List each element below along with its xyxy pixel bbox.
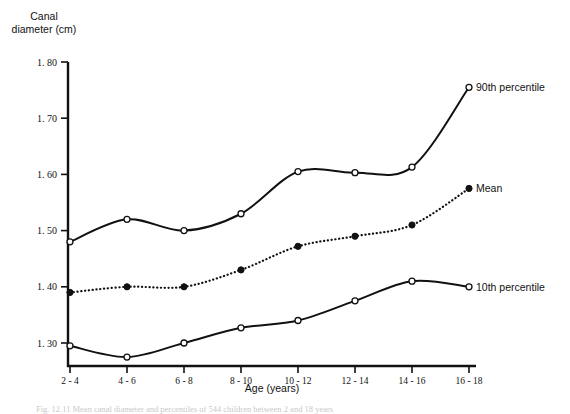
data-point — [181, 340, 187, 346]
data-point — [409, 222, 415, 228]
data-point — [295, 243, 301, 249]
data-point — [67, 343, 73, 349]
series-label-10th-percentile: 10th percentile — [476, 281, 545, 293]
series-label-90th-percentile: 90th percentile — [476, 81, 545, 93]
y-tick-label: 1. 40 — [37, 281, 57, 292]
data-point — [67, 239, 73, 245]
data-point — [409, 278, 415, 284]
series-layer — [67, 84, 472, 360]
y-axis-ticks: 1. 301. 401. 501. 601. 701. 80 — [37, 57, 68, 349]
y-tick-label: 1. 60 — [37, 169, 57, 180]
y-tick-label: 1. 50 — [37, 225, 57, 236]
series-10th-percentile — [67, 278, 472, 360]
x-tick-label: 4 - 6 — [118, 376, 136, 386]
data-point — [124, 354, 130, 360]
data-point — [181, 228, 187, 234]
x-axis-title: Age (years) — [245, 382, 299, 394]
data-point — [409, 164, 415, 170]
y-tick-label: 1. 70 — [37, 113, 57, 124]
data-point — [124, 216, 130, 222]
y-axis-title-line2: diameter (cm) — [12, 23, 77, 35]
y-axis-title-group: Canal diameter (cm) — [12, 10, 77, 35]
data-point — [295, 169, 301, 175]
series-label-mean: Mean — [476, 182, 502, 194]
x-tick-label: 6 - 8 — [175, 376, 193, 386]
x-tick-label: 16 - 18 — [456, 376, 483, 386]
data-point — [466, 284, 472, 290]
axes — [68, 62, 476, 366]
data-point — [352, 233, 358, 239]
x-tick-label: 12 - 14 — [342, 376, 369, 386]
series-line — [70, 281, 469, 357]
data-point — [67, 289, 73, 295]
y-tick-label: 1. 30 — [37, 338, 57, 349]
x-tick-label: 2 - 4 — [61, 376, 79, 386]
data-point — [238, 325, 244, 331]
figure-caption: Fig. 12.11 Mean canal diameter and perce… — [36, 404, 556, 414]
data-point — [124, 284, 130, 290]
series-90th-percentile — [67, 84, 472, 245]
series-inline-labels: 90th percentileMean10th percentile — [476, 81, 545, 293]
x-tick-label: 14 - 16 — [399, 376, 426, 386]
axis-lines — [68, 62, 476, 366]
data-point — [238, 211, 244, 217]
data-point — [352, 298, 358, 304]
data-point — [295, 318, 301, 324]
data-point — [238, 267, 244, 273]
data-point — [352, 170, 358, 176]
data-point — [466, 84, 472, 90]
y-axis-title-line1: Canal — [30, 10, 57, 22]
series-line — [70, 188, 469, 292]
y-tick-label: 1. 80 — [37, 57, 57, 68]
data-point — [466, 185, 472, 191]
data-point — [181, 284, 187, 290]
